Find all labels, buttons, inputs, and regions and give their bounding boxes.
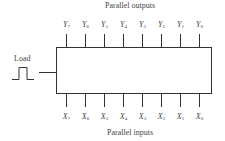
output-label-5: Y5 [101,20,108,29]
input-label-0: X0 [196,112,203,121]
input-label-3: X3 [139,112,146,121]
output-pins [67,34,200,48]
register-box [57,48,212,94]
input-label-5: X5 [101,112,108,121]
input-label-7: X7 [63,112,70,121]
input-label-2: X2 [158,112,165,121]
input-label-4: X4 [120,112,127,121]
load-label: Load [14,54,30,63]
output-label-2: Y2 [158,20,165,29]
input-pins [67,94,200,108]
output-label-0: Y0 [196,20,203,29]
output-label-1: Y1 [177,20,184,29]
parallel-inputs-title: Parallel inputs [107,128,153,137]
register-diagram [0,0,225,141]
output-label-3: Y3 [139,20,146,29]
output-label-7: Y7 [63,20,70,29]
output-label-4: Y4 [120,20,127,29]
input-label-6: X6 [82,112,89,121]
pulse-icon [12,68,34,80]
input-label-1: X1 [177,112,184,121]
output-label-6: Y6 [82,20,89,29]
parallel-outputs-title: Parallel outputs [105,1,155,10]
